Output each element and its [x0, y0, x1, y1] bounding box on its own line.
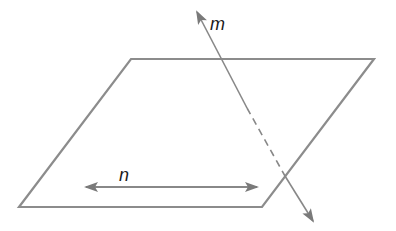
label-n: n	[119, 165, 129, 185]
line-m-lower-segment	[285, 176, 313, 221]
plane-lines-diagram: m n	[0, 0, 396, 231]
plane-parallelogram	[19, 59, 374, 207]
line-m-hidden-segment	[247, 108, 285, 176]
label-m: m	[210, 14, 225, 34]
